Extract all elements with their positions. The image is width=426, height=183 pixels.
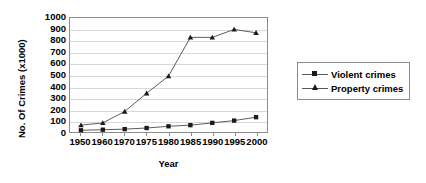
y-tick-label: 200 — [50, 105, 66, 115]
y-axis-tick-labels: 01002003004005006007008009001000 — [32, 12, 66, 138]
x-tick-label: 1990 — [202, 136, 223, 147]
x-tick-label: 1970 — [114, 136, 135, 147]
plot-area — [69, 17, 268, 133]
y-tick-label: 900 — [50, 24, 66, 34]
x-tick-label: 1980 — [158, 136, 179, 147]
x-tick-label: 1960 — [92, 136, 113, 147]
legend-triangle-marker-icon — [302, 82, 328, 94]
legend-item[interactable]: Violent crimes — [302, 67, 403, 81]
legend-label: Property crimes — [331, 83, 403, 94]
x-axis-tick-labels: 195019601970197519801985199019952000 — [69, 136, 268, 152]
data-point-marker — [188, 123, 192, 127]
y-tick-label: 400 — [50, 82, 66, 92]
data-point-marker — [254, 115, 258, 119]
y-axis-title-text: No. Of Crimes (x1000) — [16, 39, 27, 138]
data-point-marker — [166, 73, 172, 78]
data-point-marker — [210, 121, 214, 125]
data-point-marker — [231, 27, 237, 32]
data-point-marker — [123, 127, 127, 131]
data-point-marker — [232, 118, 236, 122]
x-tick-label: 1975 — [136, 136, 157, 147]
y-tick-label: 800 — [50, 35, 66, 45]
legend-item[interactable]: Property crimes — [302, 81, 403, 95]
y-tick-label: 300 — [50, 93, 66, 103]
x-tick-label: 1985 — [180, 136, 201, 147]
data-point-marker — [166, 124, 170, 128]
y-tick-label: 100 — [50, 117, 66, 127]
legend-label: Violent crimes — [331, 69, 396, 80]
y-tick-label: 1000 — [45, 12, 66, 22]
x-axis-title: Year — [69, 158, 268, 169]
x-tick-label: 2000 — [246, 136, 267, 147]
y-tick-label: 500 — [50, 70, 66, 80]
series-layer — [70, 18, 267, 132]
line-chart: No. Of Crimes (x1000) 010020030040050060… — [0, 0, 426, 183]
y-tick-label: 600 — [50, 59, 66, 69]
data-point-marker — [144, 126, 148, 130]
y-tick-label: 0 — [61, 128, 66, 138]
y-tick-label: 700 — [50, 47, 66, 57]
x-tick-label: 1950 — [69, 136, 90, 147]
y-axis-title: No. Of Crimes (x1000) — [16, 20, 32, 140]
legend-square-marker-icon — [302, 68, 328, 80]
data-point-marker — [100, 120, 106, 125]
x-tick-label: 1995 — [224, 136, 245, 147]
legend: Violent crimesProperty crimes — [297, 62, 410, 100]
